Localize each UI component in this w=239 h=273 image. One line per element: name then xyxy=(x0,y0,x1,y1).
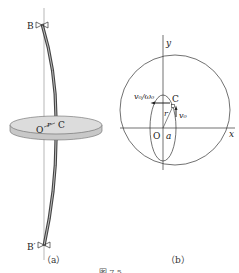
label-v0-w0: v₀/ω₀ xyxy=(134,92,155,101)
disk-top xyxy=(10,116,102,134)
shaft-lower xyxy=(44,140,56,246)
caption-b: （b） xyxy=(166,253,190,266)
panel-a-rotor: B B′ O r C xyxy=(10,8,102,260)
label-c-a: C xyxy=(58,120,65,130)
caption-a: （a） xyxy=(42,253,65,266)
label-b-bottom: B′ xyxy=(27,242,36,252)
point-c xyxy=(172,105,175,108)
label-o-b: O xyxy=(153,131,160,141)
label-c-b: C xyxy=(172,94,179,104)
label-a: a xyxy=(166,131,171,141)
label-y: y xyxy=(165,38,172,48)
label-x: x xyxy=(229,129,234,139)
label-o-a: O xyxy=(36,125,43,135)
figure-caption: 图 7.5 …… xyxy=(0,266,239,273)
label-v0: v₀ xyxy=(179,111,188,120)
panel-b-orbit: y x O a r C v₀ v₀/ω₀ xyxy=(120,35,235,170)
label-b-top: B xyxy=(27,21,34,31)
figure-canvas: B B′ O r C y x O a r C v₀ v₀/ω₀ xyxy=(0,0,239,273)
